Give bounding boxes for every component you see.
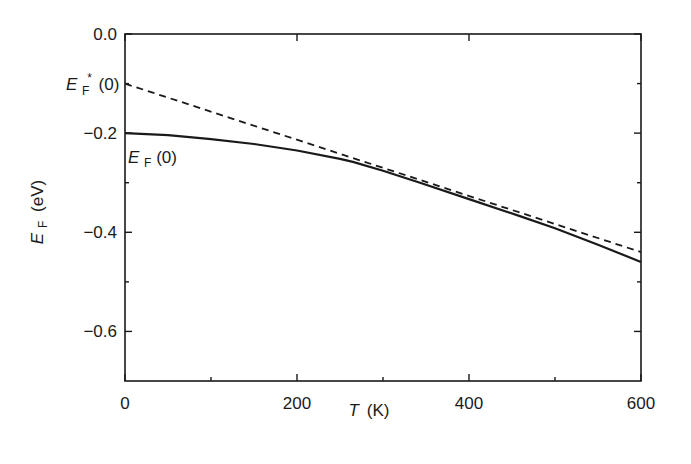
label-subscript: F <box>82 84 89 98</box>
label-subscript: F <box>144 156 151 170</box>
x-tick-label: 200 <box>283 394 311 413</box>
series-ef-solid <box>125 133 641 262</box>
y-tick-label: 0.0 <box>93 25 117 44</box>
label-ef-star-0: E F * (0) <box>66 67 119 99</box>
y-axis-title: E F (eV) <box>28 180 51 244</box>
x-tick-label: 600 <box>627 394 655 413</box>
x-axis-symbol: T <box>349 401 361 420</box>
label-symbol: E <box>128 148 140 167</box>
plot-frame <box>125 34 641 381</box>
chart-canvas: 0200400600 0.0−0.2−0.4−0.6 T (K) E F (eV… <box>0 0 691 464</box>
y-axis-subscript: F <box>36 221 50 228</box>
plot-series <box>125 84 641 262</box>
x-axis-title: T (K) <box>349 401 390 420</box>
x-tick-label: 400 <box>455 394 483 413</box>
major-ticks <box>125 34 641 381</box>
y-axis-symbol: E <box>28 232 47 244</box>
y-tick-label: −0.4 <box>83 223 117 242</box>
label-superscript: * <box>87 71 92 85</box>
y-axis-unit: (eV) <box>28 180 47 212</box>
y-tick-label: −0.6 <box>83 322 117 341</box>
x-tick-label: 0 <box>120 394 129 413</box>
y-tick-label: −0.2 <box>83 124 117 143</box>
label-ef-0: E F (0) <box>128 148 177 171</box>
x-axis-unit: (K) <box>367 401 390 420</box>
label-tail: (0) <box>99 75 120 94</box>
label-tail: (0) <box>156 148 177 167</box>
series-ef-star-dashed <box>125 84 641 253</box>
label-symbol: E <box>66 75 78 94</box>
